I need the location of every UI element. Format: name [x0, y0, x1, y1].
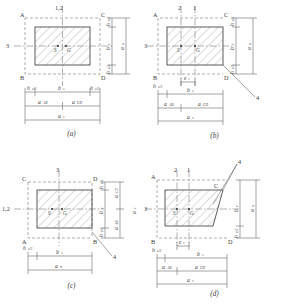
corner-label-b-br: D — [224, 74, 229, 81]
hdim-d-2-sub: s — [202, 253, 204, 257]
corner-label-a-tr: C — [101, 11, 105, 18]
vdim-c-4: a — [113, 227, 119, 230]
vdim-d-0: b — [233, 209, 239, 212]
vdim-a-3: a — [119, 47, 125, 50]
vdim-d-0-sub: c — [235, 205, 239, 207]
vdim-b-1: b — [229, 47, 235, 50]
vdim-d-1-sub: c/2 — [235, 228, 239, 233]
vdim-c-5: a — [131, 211, 137, 214]
corner-label-a-br: D — [101, 74, 106, 81]
hdim-a-0: h — [27, 85, 30, 91]
vdim-c-2-sub: c/2 — [100, 227, 104, 232]
label-shear-centroid-d: S — [173, 210, 176, 216]
corner-label-c-tr: D — [93, 175, 98, 182]
section-marker-d-leader: 4 — [238, 158, 241, 165]
hdim-a-2-sub: c/2 — [95, 87, 100, 91]
vdim-a-3-sub: n — [121, 43, 125, 45]
label-geometric-centroid-d: G — [190, 210, 194, 216]
vdim-d-2: a — [249, 209, 255, 212]
corner-label-a-tl: A — [20, 11, 25, 18]
hdim-d-3: a — [162, 264, 165, 270]
hdim-a-1-sub: s — [63, 87, 65, 91]
hdim-d-2: b — [197, 251, 200, 257]
vdim-d-1: h — [233, 235, 239, 238]
vdim-b-1-sub: c — [231, 43, 235, 45]
hdim-b-3-sub: AB — [168, 103, 174, 107]
section-marker-c-left: 1,2 — [2, 205, 10, 212]
vdim-b-2-sub: c/2 — [231, 64, 235, 69]
vdim-c-4-sub: AB — [115, 220, 119, 226]
section-marker-a-top: 1,2 — [55, 4, 63, 11]
hdim-d-1-sub: c/2 — [157, 249, 162, 253]
hdim-b-5: a — [187, 114, 190, 120]
vdim-c-0-sub: c/2 — [100, 179, 104, 184]
label-shear-centroid-c: S — [48, 210, 51, 216]
vdim-a-1-sub: c — [107, 43, 111, 45]
vdim-lines-d — [236, 180, 260, 238]
hdim-a-0-sub: c/2 — [32, 87, 37, 91]
corner-label-c-bl: A — [22, 238, 27, 245]
hdim-c-2-sub: n — [60, 265, 62, 269]
vdim-c-2: h — [98, 234, 104, 237]
label-shear-centroid-a: S — [54, 47, 57, 53]
hdim-b-0: e — [184, 75, 187, 81]
hdim-d-0: e — [179, 239, 182, 245]
hdim-b-2-sub: s — [192, 89, 194, 93]
shear-centroid-c — [51, 208, 53, 210]
vdim-c-1: b — [98, 211, 104, 214]
panel-caption-a: (a) — [0, 130, 143, 138]
vdim-a-0-sub: c/2 — [107, 16, 111, 21]
hdim-d-5-sub: s — [192, 279, 194, 283]
hdim-d-0-sub: s — [183, 241, 185, 245]
section-marker-c-leader: 4 — [113, 253, 116, 260]
shear-centroid-a — [57, 45, 59, 47]
vdim-c-3: a — [113, 195, 119, 198]
leader-line-b — [223, 65, 255, 97]
panel-a: S G A C B D 1,2 3 h c/2 b c h c/2 a n h … — [0, 0, 143, 153]
hdim-a-3: a — [38, 99, 41, 105]
hdim-a-5-sub: s — [63, 115, 65, 119]
vdim-b-3: a — [246, 47, 252, 50]
hdim-b-1-sub: c/2 — [158, 85, 163, 89]
vdim-c-1-sub: c — [100, 207, 104, 209]
panel-caption-b: (b) — [143, 132, 286, 140]
hdim-b-4-sub: CD — [203, 103, 208, 107]
vdim-c-5-sub: s — [133, 207, 137, 209]
hdim-d-3-sub: AB — [166, 266, 172, 270]
hdim-b-0-sub: s — [188, 77, 190, 81]
hdim-c-1-sub: s — [61, 251, 63, 255]
label-geometric-centroid-c: G — [63, 210, 67, 216]
panel-caption-d: (d) — [143, 290, 286, 298]
hdim-b-2: b — [187, 87, 190, 93]
vdim-a-1: b — [105, 47, 111, 50]
corner-label-b-tr: C — [224, 11, 228, 18]
vdim-b-0: h — [229, 23, 235, 26]
hdim-b-4: a — [198, 101, 201, 107]
hdim-a-1: b — [58, 85, 61, 91]
hdim-d-1: h — [152, 247, 155, 253]
shear-centroid-d — [176, 208, 178, 210]
hdim-c-2: a — [55, 263, 58, 269]
hdim-a-4: a — [72, 99, 75, 105]
hdim-lines-b — [158, 90, 223, 125]
corner-label-c-tl: C — [22, 175, 26, 182]
panel-b: S G A C B D 2 1 3 4 h c/2 b c h c/2 a n … — [143, 0, 286, 153]
vdim-c-0: h — [98, 186, 104, 189]
panel-c: S G C D A B 3 1,2 4 h c/2 b c h c/2 a CD… — [0, 154, 143, 307]
corner-label-d-tr: C — [214, 182, 218, 189]
label-shear-centroid-b: S — [177, 47, 180, 53]
hdim-b-1: h — [153, 83, 156, 89]
corner-label-b-bl: B — [153, 74, 157, 81]
vdim-a-2: h — [105, 71, 111, 74]
corner-label-d-tl: A — [151, 173, 156, 180]
hdim-b-3: a — [164, 101, 167, 107]
hdim-a-2: h — [90, 85, 93, 91]
hdim-a-5: a — [58, 113, 61, 119]
panel-caption-c: (c) — [0, 282, 143, 290]
section-marker-d-left: 3 — [144, 205, 147, 212]
hdim-c-0: h — [23, 245, 26, 251]
column-section-d — [165, 190, 223, 226]
shear-centroid-b — [180, 45, 182, 47]
hdim-a-4-sub: CD — [77, 101, 82, 105]
section-marker-c-top: 3 — [56, 166, 59, 173]
